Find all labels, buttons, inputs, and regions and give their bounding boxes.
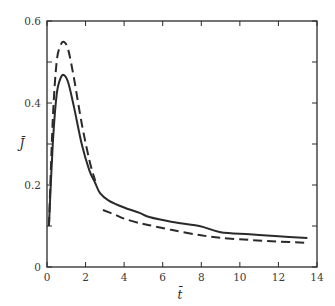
line-chart: 0246810121400.20.40.6 t̄ J̄ [0, 0, 335, 306]
y-axis-title: J̄ [17, 136, 27, 151]
y-tick-label: 0 [34, 261, 41, 273]
x-tick-label: 8 [198, 271, 205, 283]
solid-curve [49, 75, 307, 238]
x-tick-label: 14 [310, 271, 324, 283]
y-tick-label: 0.2 [24, 179, 41, 191]
plot-frame [47, 21, 317, 267]
data-series [49, 42, 307, 243]
x-axis-title: t̄ [178, 286, 184, 302]
x-tick-label: 10 [233, 271, 246, 283]
x-tick-label: 6 [159, 271, 166, 283]
axis-ticks [47, 21, 317, 267]
dashed-curve [103, 210, 307, 243]
x-tick-label: 2 [82, 271, 89, 283]
x-tick-label: 0 [44, 271, 51, 283]
x-tick-label: 4 [121, 271, 128, 283]
y-tick-label: 0.4 [24, 97, 41, 109]
y-tick-label: 0.6 [24, 15, 41, 27]
dashed-curve [49, 42, 95, 226]
x-tick-label: 12 [272, 271, 285, 283]
